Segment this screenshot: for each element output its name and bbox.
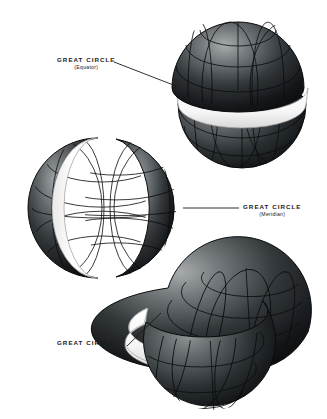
equatorial-sphere <box>172 22 322 170</box>
label-great-circle-equator: GREAT CIRCLE (Equator) <box>57 56 116 71</box>
label-equator-sub: (Equator) <box>57 64 116 71</box>
label-great-circle-meridian: GREAT CIRCLE (Meridian) <box>243 203 302 218</box>
label-meridian-sub: (Meridian) <box>243 211 302 218</box>
label-equator-main: GREAT CIRCLE <box>57 56 116 64</box>
label-meridian-main: GREAT CIRCLE <box>243 203 302 211</box>
label-oblique-main: GREAT CIRCLE <box>57 339 116 347</box>
leader-line-equator <box>114 62 176 86</box>
oblique-sphere <box>91 237 311 417</box>
meridian-sphere <box>6 138 214 278</box>
label-great-circle-oblique: GREAT CIRCLE <box>57 339 116 347</box>
